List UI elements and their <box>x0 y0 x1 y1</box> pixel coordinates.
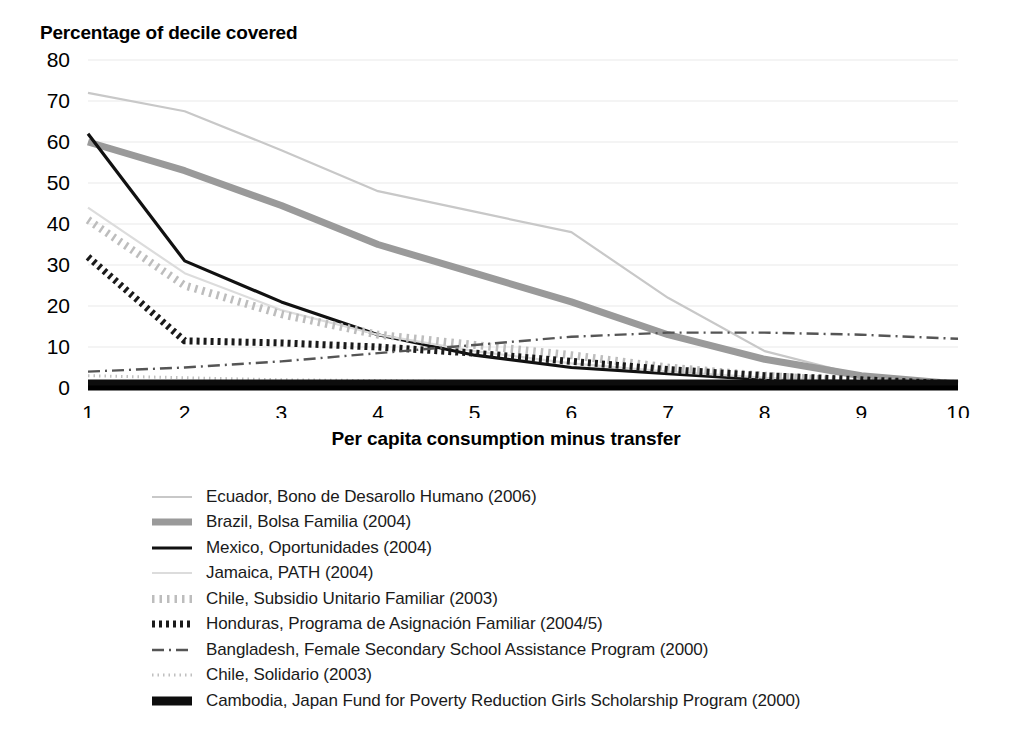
legend-item-label: Ecuador, Bono de Desarollo Humano (2006) <box>206 487 537 507</box>
legend-item[interactable]: Brazil, Bolsa Familia (2004) <box>150 510 1010 536</box>
x-axis-tick-label: 5 <box>469 401 481 418</box>
legend-item[interactable]: Mexico, Oportunidades (2004) <box>150 535 1010 561</box>
y-axis-tick-label: 60 <box>47 130 70 153</box>
legend-line-swatch <box>150 640 194 660</box>
legend-line-swatch <box>150 563 194 583</box>
x-axis-tick-label: 7 <box>662 401 674 418</box>
legend-line-swatch <box>150 589 194 609</box>
y-axis-tick-label: 40 <box>47 212 70 235</box>
legend-item-label: Cambodia, Japan Fund for Poverty Reducti… <box>206 691 800 711</box>
chart-legend: Ecuador, Bono de Desarollo Humano (2006)… <box>150 484 1010 714</box>
legend-item[interactable]: Chile, Subsidio Unitario Familiar (2003) <box>150 586 1010 612</box>
legend-item[interactable]: Cambodia, Japan Fund for Poverty Reducti… <box>150 688 1010 714</box>
legend-item-label: Jamaica, PATH (2004) <box>206 563 373 583</box>
y-axis-tick-label: 70 <box>47 89 70 112</box>
legend-item-label: Chile, Solidario (2003) <box>206 665 372 685</box>
x-axis-tick-label: 6 <box>565 401 577 418</box>
x-axis-tick-label: 3 <box>275 401 287 418</box>
legend-line-swatch <box>150 691 194 711</box>
legend-line-swatch <box>150 538 194 558</box>
plot-area: 0102030405060708012345678910 <box>0 48 1012 418</box>
legend-item[interactable]: Honduras, Programa de Asignación Familia… <box>150 612 1010 638</box>
legend-item-label: Mexico, Oportunidades (2004) <box>206 538 432 558</box>
y-axis-tick-label: 80 <box>47 48 70 71</box>
series-line <box>88 142 958 384</box>
legend-line-swatch <box>150 665 194 685</box>
y-axis-tick-label: 30 <box>47 253 70 276</box>
legend-item[interactable]: Ecuador, Bono de Desarollo Humano (2006) <box>150 484 1010 510</box>
x-axis-tick-label: 9 <box>855 401 867 418</box>
y-axis-tick-label: 50 <box>47 171 70 194</box>
x-axis-tick-label: 2 <box>179 401 191 418</box>
x-axis-tick-label: 4 <box>372 401 384 418</box>
legend-line-swatch <box>150 512 194 532</box>
x-axis-tick-label: 1 <box>82 401 94 418</box>
legend-item-label: Bangladesh, Female Secondary School Assi… <box>206 640 708 660</box>
legend-line-swatch <box>150 614 194 634</box>
legend-item[interactable]: Bangladesh, Female Secondary School Assi… <box>150 637 1010 663</box>
y-axis-tick-label: 20 <box>47 294 70 317</box>
x-axis-tick-label: 8 <box>759 401 771 418</box>
y-axis-tick-label: 10 <box>47 335 70 358</box>
legend-item[interactable]: Jamaica, PATH (2004) <box>150 561 1010 587</box>
chart-figure: Percentage of decile covered 01020304050… <box>0 0 1012 743</box>
legend-item-label: Honduras, Programa de Asignación Familia… <box>206 614 603 634</box>
legend-line-swatch <box>150 487 194 507</box>
x-axis-tick-label: 10 <box>946 401 969 418</box>
legend-item[interactable]: Chile, Solidario (2003) <box>150 663 1010 689</box>
series-line <box>88 134 958 384</box>
series-line <box>88 220 958 384</box>
legend-item-label: Chile, Subsidio Unitario Familiar (2003) <box>206 589 498 609</box>
y-axis-tick-label: 0 <box>58 376 70 399</box>
plot-svg: 0102030405060708012345678910 <box>0 48 1012 418</box>
chart-title: Percentage of decile covered <box>40 22 297 44</box>
x-axis-title: Per capita consumption minus transfer <box>0 428 1012 450</box>
legend-item-label: Brazil, Bolsa Familia (2004) <box>206 512 411 532</box>
